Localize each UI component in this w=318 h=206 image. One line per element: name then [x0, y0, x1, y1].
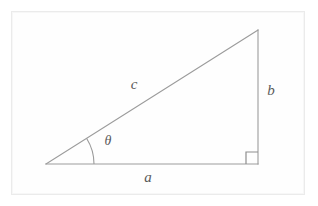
right-angle-marker-icon — [246, 152, 258, 164]
figure-root: c b a θ — [0, 0, 318, 206]
right-triangle-canvas: c b a θ — [0, 0, 318, 206]
angle-arc-theta — [87, 138, 94, 164]
triangle-side-hypotenuse-line — [46, 30, 258, 164]
label-angle-theta: θ — [105, 133, 112, 148]
label-opposite-b: b — [267, 82, 275, 98]
label-adjacent-a: a — [144, 169, 152, 185]
label-hypotenuse-c: c — [131, 76, 138, 92]
